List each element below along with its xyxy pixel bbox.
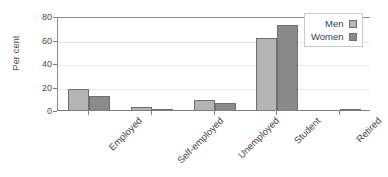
x-axis-label-employed: Employed [107,115,145,153]
x-axis-label-unemployed: Unemployed [235,115,280,160]
bar-student-women [277,25,298,111]
y-axis-tick-label: 40 [30,59,52,69]
legend-item-women: Women [311,30,357,43]
bar-group [68,18,110,111]
y-axis-tick-label: 80 [30,12,52,22]
bar-employed-men [68,89,89,111]
y-axis-tick-label: 60 [30,36,52,46]
y-axis-tick-label: 0 [30,106,52,116]
x-axis-category-labels: EmployedSelf-employedUnemployedStudentRe… [57,113,388,177]
bar-group [256,18,298,111]
legend-item-men: Men [311,17,357,30]
y-axis-title: Per cent [11,21,21,85]
y-axis-tick-labels: 020406080 [26,17,52,111]
x-axis-label-retired: Retired [354,115,383,144]
legend-label: Women [311,31,344,42]
legend-swatch-icon [349,33,357,41]
x-axis-label-self-employed: Self-employed [175,115,226,166]
y-axis-tick-label: 20 [30,83,52,93]
bar-student-men [256,38,277,111]
legend-label: Men [325,18,343,29]
legend-swatch-icon [349,20,357,28]
bar-employed-women [89,96,110,111]
bar-group [194,18,236,111]
bar-chart: Per cent 020406080 EmployedSelf-employed… [0,0,388,177]
bar-group [131,18,173,111]
x-axis-label-student: Student [292,115,323,146]
legend: MenWomen [304,13,363,47]
